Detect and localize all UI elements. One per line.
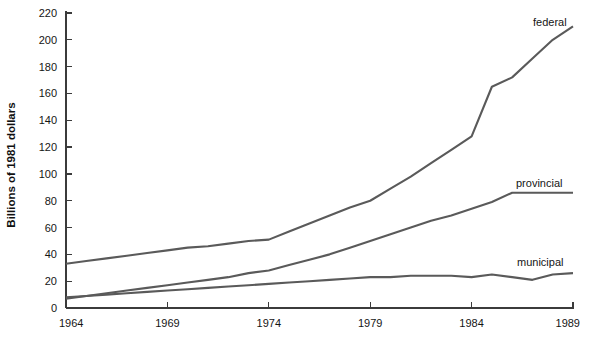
series-lines [66,26,573,298]
series-label-municipal: municipal [517,256,563,268]
y-tick-label: 40 [45,248,57,260]
x-axis-ticks [66,302,573,308]
y-tick-label: 60 [45,222,57,234]
chart-canvas: 020406080100120140160180200220 196419691… [0,0,598,341]
series-line-federal [66,26,573,263]
x-tick-label-group: 196419691974197919841989 [59,317,580,329]
y-axis-title: Billions of 1981 dollars [5,102,17,227]
y-tick-label: 120 [39,141,57,153]
y-tick-label: 160 [39,87,57,99]
x-tick-label: 1974 [257,317,281,329]
y-tick-label: 140 [39,114,57,126]
line-chart: 020406080100120140160180200220 196419691… [0,0,598,341]
series-line-municipal [66,273,573,297]
y-tick-label: 0 [51,302,57,314]
series-label-provincial: provincial [516,177,562,189]
y-tick-label: 180 [39,61,57,73]
y-tick-label: 80 [45,195,57,207]
series-label-federal: federal [533,16,567,28]
series-label-group: federalprovincialmunicipal [516,16,567,268]
y-tick-label: 220 [39,7,57,19]
x-tick-label: 1984 [459,317,483,329]
y-tick-label: 100 [39,168,57,180]
x-tick-label: 1979 [358,317,382,329]
x-tick-label: 1989 [556,317,580,329]
x-tick-label: 1969 [155,317,179,329]
series-line-provincial [66,193,573,299]
y-tick-label-group: 020406080100120140160180200220 [39,7,57,314]
x-tick-label: 1964 [59,317,83,329]
y-tick-label: 20 [45,275,57,287]
y-tick-label: 200 [39,34,57,46]
